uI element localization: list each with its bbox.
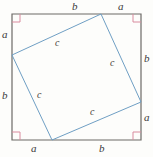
label-bottom-a: a xyxy=(31,143,37,154)
label-inner-c-right: c xyxy=(110,58,114,68)
right-angle-marker-bottom-right xyxy=(133,132,141,140)
label-right-a: a xyxy=(144,112,150,123)
label-left-a: a xyxy=(2,29,8,40)
label-right-b: b xyxy=(144,53,150,64)
label-bottom-b: b xyxy=(99,143,105,154)
right-angle-marker-bottom-left xyxy=(12,132,20,140)
label-top-a: a xyxy=(118,1,124,12)
right-angle-marker-top-right xyxy=(133,14,141,22)
label-inner-c-left: c xyxy=(37,90,41,100)
label-inner-c-bottom: c xyxy=(90,107,94,117)
inner-square xyxy=(12,14,141,140)
outer-square xyxy=(12,14,141,140)
diagram-canvas xyxy=(0,0,153,157)
label-inner-c-top: c xyxy=(55,38,59,48)
pythagorean-diagram: b a a b b a a b c c c c xyxy=(0,0,153,157)
label-left-b: b xyxy=(2,90,8,101)
right-angle-marker-top-left xyxy=(12,14,20,22)
label-top-b: b xyxy=(72,1,78,12)
